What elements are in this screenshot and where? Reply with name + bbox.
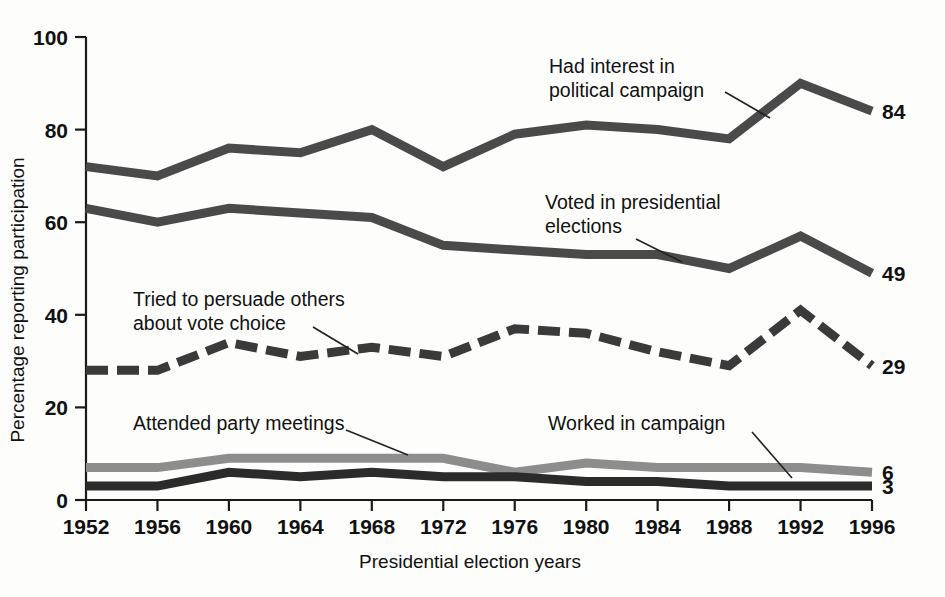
annotation-interest-line1: Had interest in bbox=[549, 55, 675, 77]
annotation-voted-line1: Voted in presidential bbox=[545, 191, 721, 213]
end-label-0: 84 bbox=[882, 100, 906, 123]
x-tick-label-1976: 1976 bbox=[491, 515, 538, 538]
y-axis-title: Percentage reporting participation bbox=[7, 157, 28, 442]
participation-line-chart: 020406080100 195219561960196419681972197… bbox=[0, 0, 945, 597]
annotation-persuade-line1: Tried to persuade others bbox=[133, 288, 345, 310]
end-label-1: 49 bbox=[882, 262, 905, 285]
x-tick-label-1972: 1972 bbox=[420, 515, 467, 538]
x-tick-label-1980: 1980 bbox=[563, 515, 610, 538]
x-tick-label-1988: 1988 bbox=[706, 515, 753, 538]
annotation-worked: Worked in campaign bbox=[548, 412, 725, 434]
y-tick-label-60: 60 bbox=[45, 211, 68, 234]
x-tick-label-1952: 1952 bbox=[63, 515, 110, 538]
x-tick-label-1984: 1984 bbox=[634, 515, 681, 538]
annotation-meetings: Attended party meetings bbox=[133, 412, 345, 434]
x-tick-label-1996: 1996 bbox=[849, 515, 896, 538]
y-tick-label-80: 80 bbox=[45, 119, 68, 142]
annotation-persuade-line2: about vote choice bbox=[133, 312, 286, 334]
chart-page: 020406080100 195219561960196419681972197… bbox=[0, 0, 945, 597]
y-tick-label-20: 20 bbox=[45, 396, 68, 419]
end-label-4: 3 bbox=[882, 475, 894, 498]
x-tick-label-1964: 1964 bbox=[277, 515, 324, 538]
y-tick-label-0: 0 bbox=[56, 489, 68, 512]
x-tick-label-1956: 1956 bbox=[134, 515, 181, 538]
y-tick-label-40: 40 bbox=[45, 304, 68, 327]
x-tick-label-1960: 1960 bbox=[206, 515, 253, 538]
annotation-voted-line2: elections bbox=[545, 215, 622, 237]
y-tick-label-100: 100 bbox=[33, 26, 68, 49]
x-tick-label-1968: 1968 bbox=[348, 515, 395, 538]
x-tick-label-1992: 1992 bbox=[777, 515, 824, 538]
annotation-interest-line2: political campaign bbox=[549, 79, 704, 101]
x-axis-title: Presidential election years bbox=[359, 551, 581, 572]
end-label-2: 29 bbox=[882, 355, 905, 378]
